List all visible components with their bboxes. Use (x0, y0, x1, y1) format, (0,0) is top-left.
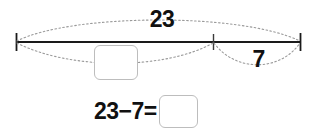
equation-equals-sign: = (144, 100, 157, 123)
worksheet-canvas: 23 7 23 − 7 = (0, 0, 311, 134)
whole-value-label: 23 (139, 8, 185, 31)
equation-minuend: 23 (94, 100, 119, 123)
equation-row: 23 − 7 = (94, 93, 218, 129)
equation-answer-input-box[interactable] (159, 95, 198, 128)
equation-minus-operator: − (119, 100, 132, 123)
equation-subtrahend: 7 (132, 100, 144, 123)
unknown-part-input-box[interactable] (94, 45, 138, 80)
known-part-value-label: 7 (246, 48, 272, 71)
